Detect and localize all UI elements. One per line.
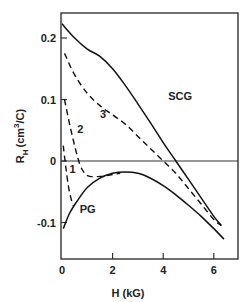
x-axis-label: H (kG) <box>112 287 145 299</box>
curve-label: 1 <box>70 163 76 175</box>
series-1-curve <box>63 146 73 206</box>
series-3-curve <box>65 53 222 225</box>
y-tick-label: 0.1 <box>41 94 56 106</box>
x-tick-label: 2 <box>110 264 116 276</box>
svg-text:RH(cm3/C): RH(cm3/C) <box>12 108 30 163</box>
x-tick-label: 0 <box>59 264 65 276</box>
y-tick-label: 0 <box>50 155 56 167</box>
y-tick-label: 0.2 <box>41 32 56 44</box>
x-tick-label: 6 <box>211 264 217 276</box>
x-tick-label: 4 <box>160 264 167 276</box>
y-tick-label: -0.1 <box>37 217 56 229</box>
hall-coefficient-chart: 0246 0.20.10-0.1 SCG321PG H (kG) RH(cm3/… <box>0 0 249 302</box>
y-axis-ticks: 0.20.10-0.1 <box>37 32 67 229</box>
curve-label: 2 <box>77 123 83 135</box>
curve-label: SCG <box>168 90 192 102</box>
curve-labels: SCG321PG <box>70 90 193 216</box>
series-scg-curve <box>62 24 221 226</box>
curve-label: PG <box>80 203 96 215</box>
x-axis-ticks: 0246 <box>59 253 217 276</box>
curve-label: 3 <box>100 108 106 120</box>
y-axis-label: RH(cm3/C) <box>12 108 30 163</box>
